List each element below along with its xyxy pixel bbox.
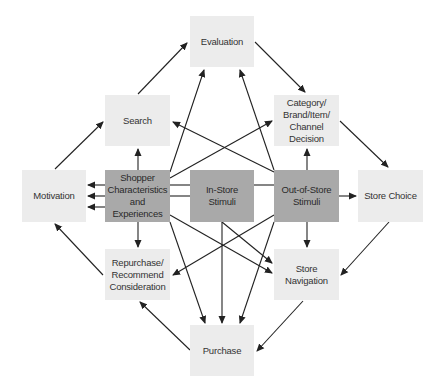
node-store-navigation: Store Navigation [274,249,339,300]
node-out-of-store-stimuli: Out-of-Store Stimuli [274,170,339,222]
arrow-storechoice-navigation [341,222,389,275]
node-category-decision: Category/ Brand/Item/ Channel Decision [274,95,339,146]
node-purchase: Purchase [190,325,254,376]
arrow-navigation-purchase [257,301,303,351]
node-motivation: Motivation [22,170,86,222]
arrow-motivation-search [55,122,103,169]
node-in-store-stimuli: In-Store Stimuli [190,170,254,222]
arrow-category-storechoice [340,121,388,167]
arrow-outofstore-purchase [240,222,274,323]
arrow-outofstore-search [173,122,274,172]
arrow-shopper-purchase [170,222,205,323]
arrow-evaluation-category [255,42,305,92]
node-store-choice: Store Choice [358,170,423,222]
arrow-purchase-repurchase [140,302,190,350]
node-shopper-characteristics: Shopper Characteristics and Experiences [105,170,170,222]
arrow-shopper-evaluation [170,70,204,172]
arrow-repurchase-motivation [55,224,103,275]
arrow-shopper-navigation [170,215,272,273]
arrow-outofstore-evaluation [240,70,274,170]
arrow-search-evaluation [138,43,187,94]
node-evaluation: Evaluation [190,16,254,67]
node-repurchase: Repurchase/ Recommend Consideration [105,249,170,300]
arrow-instore-navigation [222,222,272,263]
node-search: Search [105,95,170,146]
